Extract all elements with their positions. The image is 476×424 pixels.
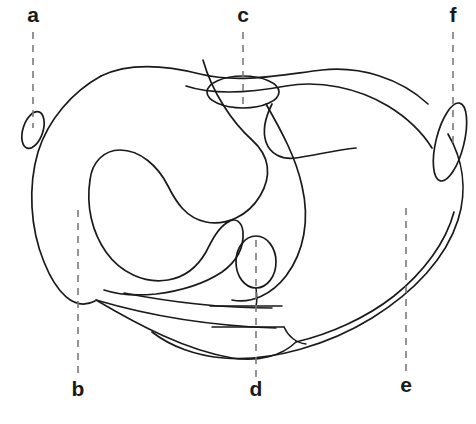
- inner-swirl-tail: [104, 220, 243, 295]
- central-lobe-group: [264, 104, 356, 158]
- upper-right-band-upper-edge: [186, 84, 432, 148]
- right-margin-oval-f: [427, 100, 474, 184]
- figure-container: a c f b d e: [0, 0, 476, 424]
- outer-body-contour: [32, 76, 101, 304]
- lower-right-hook: [284, 327, 306, 344]
- anatomical-diagram-svg: a c f b d e: [0, 0, 476, 424]
- outer-body-contour-right: [152, 134, 463, 359]
- upper-right-band-group: [186, 84, 432, 301]
- right-lower-contour-group: [296, 212, 454, 342]
- right-margin-oval-f-group: [427, 100, 474, 184]
- upper-right-band-lower-edge: [232, 104, 305, 301]
- label-b: b: [72, 377, 85, 400]
- label-e: e: [400, 373, 412, 396]
- right-lower-inner-edge: [296, 212, 454, 342]
- midline-ticks-group: [210, 288, 306, 344]
- label-a: a: [27, 3, 39, 26]
- fan-line-middle: [96, 300, 276, 328]
- outer-body-contour-group: [32, 67, 463, 359]
- central-lobe: [264, 104, 356, 158]
- label-c: c: [237, 3, 249, 26]
- label-d: d: [250, 377, 263, 400]
- fan-line-lower: [96, 300, 296, 359]
- inner-c-shaped-swirl-group: [89, 60, 268, 295]
- lower-fan-lines-group: [96, 293, 296, 359]
- outer-body-contour-top-right: [101, 67, 428, 104]
- label-f: f: [450, 3, 458, 26]
